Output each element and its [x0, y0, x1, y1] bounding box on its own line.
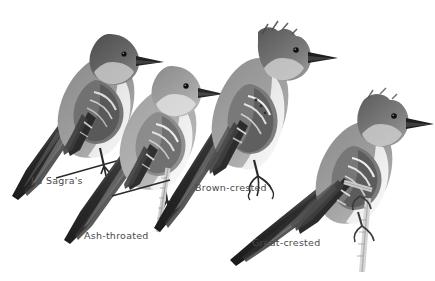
- species-label-great-crested: Great-crested: [252, 238, 320, 248]
- bird-identification-plate: La Sagra's Ash-throated Brown-crested Gr…: [0, 0, 435, 281]
- species-label-brown-crested: Brown-crested: [195, 183, 267, 193]
- species-label-ash-throated: Ash-throated: [84, 231, 149, 241]
- bird-illustration-brown-crested: [0, 0, 435, 281]
- species-label-la-sagras: La Sagra's: [31, 176, 83, 186]
- bird-illustration-great-crested: [0, 0, 435, 281]
- bird-illustration-ash-throated: [0, 0, 435, 281]
- bird-illustration-la-sagras: [0, 0, 435, 281]
